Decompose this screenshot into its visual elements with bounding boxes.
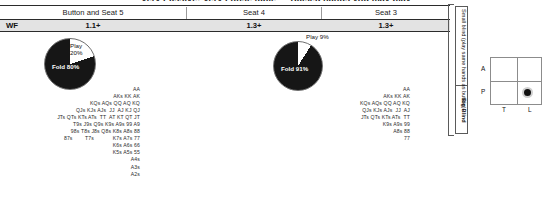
hand-list-seat3: AAAKs KK AKKQs AQs QQ AQ KQQJs KJs AJs J…: [280, 86, 410, 142]
big-blind-label: Big Blind: [458, 89, 469, 131]
poker-strategy-chart: Very Passive: Very Loose table — Raised …: [0, 0, 552, 209]
seat-header-band: Button and Seat 5 Seat 4 Seat 3: [0, 6, 450, 20]
matrix-marker-dot: [522, 87, 533, 98]
hand-list-button-seat5: AAAKs KK AKKQs AQs QQ AQ KQQJs KJs AJs J…: [0, 86, 140, 178]
seat-header-col-1: Seat 4: [187, 6, 321, 19]
pie0-play-label: Play: [70, 42, 82, 49]
header-rule-bottom: [0, 31, 450, 32]
hand-row: 87s T7s K7s A7s 77: [0, 135, 140, 142]
seat-header-col-0: Button and Seat 5: [0, 6, 186, 19]
matrix-row-label-a: A: [481, 65, 485, 72]
small-blind-label: Small blind (play same hands as button): [458, 9, 469, 83]
hand-row: K6s A6s 66: [0, 142, 140, 149]
hand-row: AA: [0, 86, 140, 93]
header-rule-top: [0, 5, 450, 6]
hand-row: AKs KK AK: [280, 93, 410, 100]
hand-row: KQs AQs QQ AQ KQ: [280, 100, 410, 107]
wf-multiplier-1: 1.3+: [187, 20, 321, 31]
wf-row: WF 1.1+ 1.3+ 1.3+: [0, 20, 450, 31]
pie0-fold-label: Fold 80%: [52, 63, 79, 70]
hand-row: AKs KK AK: [0, 93, 140, 100]
hand-row: A8s 88: [280, 128, 410, 135]
hand-row: A4s: [0, 156, 140, 163]
position-matrix: [490, 57, 542, 105]
pie0-play-pct: 20%: [70, 49, 82, 56]
hand-row: T9s J9s Q9s K9s A9s 99 A9: [0, 121, 140, 128]
matrix-col-label-t: T: [502, 106, 506, 113]
blinds-outer-frame: [448, 4, 454, 136]
blinds-panel: Small blind (play same hands as button) …: [455, 6, 468, 134]
hand-row: QJs KJs AJs JJ AJ KJ QJ: [0, 107, 140, 114]
wf-multiplier-0: 1.1+: [0, 20, 186, 31]
page-headline: Very Passive: Very Loose table — Raised …: [0, 0, 552, 1]
hand-row: A3s: [0, 164, 140, 171]
hand-row: JTs QTs KTs ATs TT: [280, 114, 410, 121]
hand-row: QJs KJs AJs JJ AJ: [280, 107, 410, 114]
pie1-play-label: Play 9%: [306, 33, 329, 40]
matrix-row-label-p: P: [481, 88, 485, 95]
hand-row: JTs QTs KTs ATs TT AT KT QT JT: [0, 114, 140, 121]
hand-row: 98s T8s J8s Q8s K8s A8s 88: [0, 128, 140, 135]
hand-row: A2s: [0, 171, 140, 178]
matrix-col-label-l: L: [528, 106, 532, 113]
hand-row: K5s A5s 55: [0, 149, 140, 156]
hand-row: K9s A9s 99: [280, 121, 410, 128]
matrix-horizontal-divider: [491, 81, 541, 82]
wf-multiplier-2: 1.3+: [322, 20, 450, 31]
seat-header-col-2: Seat 3: [322, 6, 450, 19]
hand-row: KQs AQs QQ AQ KQ: [0, 100, 140, 107]
pie1-fold-label: Fold 91%: [281, 65, 308, 72]
hand-row: AA: [280, 86, 410, 93]
hand-row: 77: [280, 135, 410, 142]
